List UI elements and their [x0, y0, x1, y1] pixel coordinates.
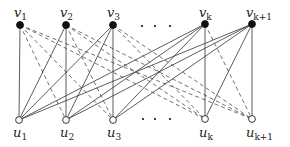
ellipsis-dot	[169, 118, 171, 120]
bipartite-graph-diagram: v1v2v3vkvk+1u1u2u3ukuk+1	[0, 0, 290, 147]
vertex-v2	[63, 22, 70, 29]
vertex-uk1	[249, 116, 256, 123]
vertex-label-u2: u2	[60, 125, 74, 142]
vertex-label-u3: u3	[107, 125, 121, 142]
ellipsis-dot	[141, 25, 143, 27]
solid-edge-v2-u1	[19, 25, 66, 120]
solid-edge-vk1-u2	[66, 24, 252, 120]
vertex-u3	[110, 117, 117, 124]
vertex-label-vk: vk	[199, 5, 212, 22]
vertex-u2	[63, 117, 70, 124]
ellipsis-dots	[141, 25, 171, 120]
vertex-label-v1: v1	[14, 5, 27, 22]
vertex-label-vk1: vk+1	[246, 5, 272, 22]
solid-edge-v1-u1	[19, 25, 20, 120]
vertex-label-v2: v2	[60, 5, 73, 22]
solid-edge-vk1-u3	[113, 24, 252, 120]
vertex-v1	[17, 22, 24, 29]
edges	[19, 24, 252, 120]
ellipsis-dot	[142, 118, 144, 120]
vertex-label-uk: uk	[199, 125, 213, 142]
vertex-label-uk1: uk+1	[246, 125, 273, 142]
ellipsis-dot	[154, 118, 156, 120]
vertex-uk	[202, 116, 209, 123]
ellipsis-dot	[154, 25, 156, 27]
vertex-v3	[110, 22, 117, 29]
vertex-u1	[16, 117, 23, 124]
vertex-label-u1: u1	[13, 125, 27, 142]
vertex-label-v3: v3	[107, 5, 120, 22]
vertex-labels: v1v2v3vkvk+1u1u2u3ukuk+1	[13, 5, 273, 142]
ellipsis-dot	[169, 25, 171, 27]
